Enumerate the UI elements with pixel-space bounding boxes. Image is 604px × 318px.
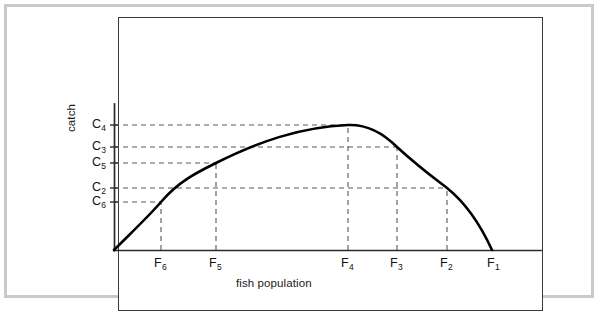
y-tick-label-c6-base: C (92, 194, 101, 208)
y-tick-label-c3-base: C (92, 139, 101, 153)
x-tick-label-f4: F4 (341, 257, 353, 270)
y-tick-label-c2: C2 (92, 181, 106, 194)
x-tick-label-f5-base: F (209, 256, 217, 270)
catch-vs-fish-population-chart (0, 0, 604, 318)
y-tick-label-c4: C4 (92, 118, 106, 131)
x-tick-label-f2-base: F (440, 256, 448, 270)
x-tick-label-f2-sub: 2 (448, 262, 453, 272)
x-axis-title: fish population (236, 277, 312, 289)
y-tick-label-c5: C5 (92, 156, 106, 169)
y-tick-label-c6-sub: 6 (101, 200, 106, 210)
x-tick-label-f6-sub: 6 (162, 262, 167, 272)
y-tick-label-c5-base: C (92, 155, 101, 169)
y-axis-title: catch (65, 98, 77, 138)
x-tick-label-f1-sub: 1 (495, 262, 500, 272)
x-tick-label-f6-base: F (154, 256, 162, 270)
y-tick-label-c3-sub: 3 (101, 145, 106, 155)
x-tick-label-f3-base: F (390, 256, 398, 270)
figure-root: catch fish population C4 C3 C5 C2 C6 F6 … (0, 0, 604, 318)
x-tick-label-f4-sub: 4 (349, 262, 354, 272)
y-tick-label-c2-sub: 2 (101, 186, 106, 196)
y-tick-label-c4-base: C (92, 117, 101, 131)
x-tick-label-f5: F5 (209, 257, 221, 270)
y-tick-label-c2-base: C (92, 180, 101, 194)
y-tick-label-c6: C6 (92, 195, 106, 208)
y-tick-label-c5-sub: 5 (101, 161, 106, 171)
x-tick-label-f5-sub: 5 (217, 262, 222, 272)
x-tick-label-f6: F6 (154, 257, 166, 270)
x-tick-label-f3: F3 (390, 257, 402, 270)
y-tick-label-c3: C3 (92, 140, 106, 153)
x-tick-label-f4-base: F (341, 256, 349, 270)
x-tick-label-f3-sub: 3 (398, 262, 403, 272)
y-tick-label-c4-sub: 4 (101, 123, 106, 133)
guide-lines-group (114, 124, 448, 250)
x-tick-label-f2: F2 (440, 257, 452, 270)
x-tick-label-f1-base: F (487, 256, 495, 270)
x-tick-label-f1: F1 (487, 257, 499, 270)
